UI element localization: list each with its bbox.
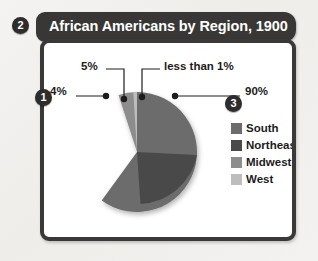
leader-dot-5pct (121, 96, 127, 102)
callout-marker-1[interactable]: 1 (35, 89, 52, 106)
legend-label-south: South (246, 122, 279, 134)
data-label-5-percent: 5% (81, 60, 98, 72)
legend-item-south[interactable]: South (231, 120, 296, 136)
legend-swatch-south (231, 123, 242, 134)
data-label-4-percent: 4% (50, 85, 67, 97)
legend-swatch-northeast (231, 140, 242, 151)
figure-header-bar: African Americans by Region, 1900 (36, 12, 296, 42)
leader-lines (76, 69, 240, 99)
figure-panel: African Americans by Region, 1900 (36, 12, 304, 247)
legend: South Northeast Midwest West (231, 120, 296, 188)
data-label-90-percent: 90% (245, 85, 268, 97)
leader-dot-90pct (172, 93, 178, 99)
page-root: 2 1 3 African Americans by Region, 1900 (0, 0, 318, 261)
data-label-less-than-1-percent: less than 1% (164, 60, 234, 72)
legend-label-midwest: Midwest (246, 156, 291, 168)
legend-item-northeast[interactable]: Northeast (231, 137, 296, 153)
leader-dot-4pct (103, 93, 109, 99)
legend-label-west: West (246, 173, 273, 185)
legend-label-northeast: Northeast (246, 139, 296, 151)
pie-chart: 5% less than 1% 4% 90% South Northeast (44, 43, 292, 237)
callout-marker-2[interactable]: 2 (12, 17, 29, 34)
legend-item-west[interactable]: West (231, 171, 296, 187)
callout-marker-3[interactable]: 3 (225, 95, 242, 112)
legend-swatch-west (231, 174, 242, 185)
legend-item-midwest[interactable]: Midwest (231, 154, 296, 170)
figure-title: African Americans by Region, 1900 (49, 18, 288, 34)
pie-slices (102, 89, 207, 212)
chart-body: 5% less than 1% 4% 90% South Northeast (40, 39, 296, 241)
leader-dot-lt1pct (139, 94, 145, 100)
legend-swatch-midwest (231, 157, 242, 168)
